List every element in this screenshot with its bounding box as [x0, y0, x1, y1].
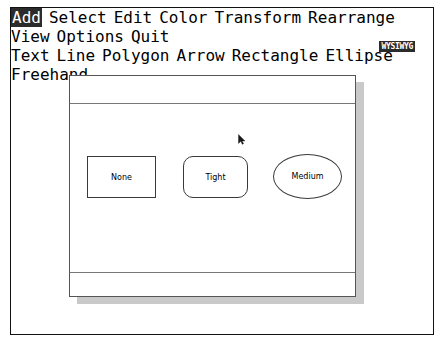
document-canvas[interactable]: None Tight Medium [70, 105, 355, 271]
shape-ellipse-medium[interactable]: Medium [273, 154, 342, 199]
menu-item-text[interactable]: Text [11, 46, 50, 65]
arrow-pointer-icon [238, 130, 246, 141]
page-frame: WYSIWYG AddSelectEditColorTransformRearr… [10, 7, 434, 335]
wysiwyg-logo: WYSIWYG [379, 41, 415, 52]
screen: WYSIWYG AddSelectEditColorTransformRearr… [0, 0, 446, 347]
menu-item-polygon[interactable]: Polygon [102, 46, 169, 65]
document-window[interactable]: None Tight Medium [69, 75, 356, 297]
menu-item-edit[interactable]: Edit [114, 8, 153, 27]
document-window-bottom-strip [70, 272, 355, 296]
shape-label-none: None [111, 173, 132, 182]
menu-item-select[interactable]: Select [49, 8, 107, 27]
menubar-row-primary: AddSelectEditColorTransformRearrangeView… [11, 8, 433, 46]
menu-item-arrow[interactable]: Arrow [177, 46, 225, 65]
menu-item-add[interactable]: Add [11, 8, 42, 27]
menu-item-color[interactable]: Color [159, 8, 207, 27]
menu-item-line[interactable]: Line [57, 46, 96, 65]
menu-item-transform[interactable]: Transform [214, 8, 301, 27]
document-window-top-strip [70, 76, 355, 104]
shape-rounded-rectangle-tight[interactable]: Tight [183, 156, 248, 198]
menu-item-rectangle[interactable]: Rectangle [232, 46, 319, 65]
menu-item-rearrange[interactable]: Rearrange [308, 8, 395, 27]
shape-rectangle-none[interactable]: None [87, 156, 156, 198]
menu-item-view[interactable]: View [11, 27, 50, 46]
menu-item-quit[interactable]: Quit [131, 27, 170, 46]
shape-label-medium: Medium [292, 172, 324, 181]
shape-label-tight: Tight [205, 173, 225, 182]
menu-item-options[interactable]: Options [57, 27, 124, 46]
